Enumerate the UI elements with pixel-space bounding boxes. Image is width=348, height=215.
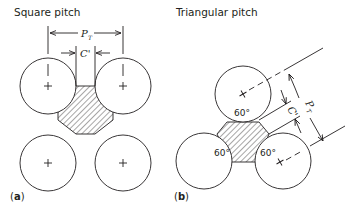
angle-label-right: 60° (260, 148, 276, 158)
clearance-label: C' (80, 48, 90, 59)
panel-b-triangular-pitch: Triangular pitch P T C' (174, 6, 345, 202)
angle-label-top: 60° (234, 108, 250, 118)
pitch-arrow-bottom (310, 118, 323, 141)
tube-circle-bottom-right (255, 133, 311, 189)
pitch-label-group: P T (301, 98, 319, 116)
panel-a-square-pitch: Square pitch P T C' (a) (10, 6, 151, 202)
angle-label-left: 60° (214, 148, 230, 158)
pitch-label: P (80, 28, 88, 39)
pitch-arrow-top (289, 74, 295, 88)
panel-b-label: (b) (174, 191, 189, 202)
tube-circle-bottom-left (176, 133, 232, 189)
tube-pitch-diagram: Square pitch P T C' (a) (0, 0, 348, 215)
panel-a-label: (a) (10, 191, 25, 202)
pitch-subscript: T (88, 34, 93, 41)
panel-a-title: Square pitch (14, 6, 80, 18)
panel-b-title: Triangular pitch (175, 6, 258, 18)
clearance-arrow-top (281, 90, 286, 104)
clearance-arrow-bottom (295, 119, 301, 133)
clearance-extension-bottom (269, 116, 300, 134)
